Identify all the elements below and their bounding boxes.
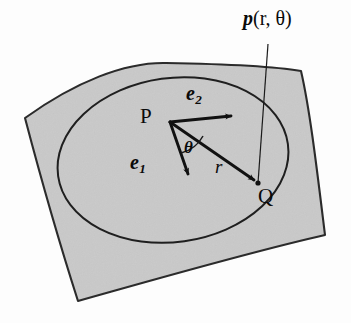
label-basis-vector-1: e1 — [130, 152, 146, 175]
label-basis-vector-1-subscript: 1 — [139, 161, 146, 176]
label-basis-vector-2-symbol: e — [186, 82, 195, 104]
geometry-diagram — [0, 0, 351, 323]
label-basis-vector-1-symbol: e — [130, 151, 139, 173]
label-basis-vector-2-subscript: 2 — [195, 92, 202, 107]
figure-container: p(r, θ) P Q e2 e1 θ r — [0, 0, 351, 323]
label-angle-theta: θ — [184, 139, 193, 156]
label-radius-r: r — [215, 157, 222, 176]
label-position-vector-args: (r, θ) — [253, 7, 292, 29]
label-point-p: P — [140, 106, 152, 127]
label-position-vector-symbol: p — [243, 7, 253, 29]
label-position-vector: p(r, θ) — [243, 8, 292, 28]
label-point-q: Q — [258, 186, 273, 207]
label-basis-vector-2: e2 — [186, 83, 202, 106]
